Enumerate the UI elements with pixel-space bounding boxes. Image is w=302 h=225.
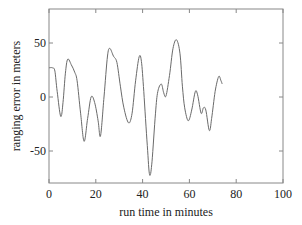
x-tick-label: 80 — [230, 187, 242, 201]
x-axis-label: run time in minutes — [119, 205, 213, 219]
x-tick-label: 100 — [274, 187, 292, 201]
x-tick-label: 20 — [90, 187, 102, 201]
x-tick-label: 60 — [183, 187, 195, 201]
x-tick-label: 40 — [137, 187, 149, 201]
line-chart: 020406080100 500-50 run time in minutes … — [0, 0, 302, 225]
y-tick-label: 50 — [34, 36, 46, 50]
x-axis-tick-labels: 020406080100 — [46, 187, 292, 201]
y-tick-label: -50 — [30, 144, 46, 158]
ranging-error-line — [49, 40, 222, 176]
y-axis-label: ranging error in meters — [9, 41, 23, 152]
y-axis-tick-labels: 500-50 — [30, 36, 46, 158]
x-tick-label: 0 — [46, 187, 52, 201]
y-tick-label: 0 — [40, 90, 46, 104]
